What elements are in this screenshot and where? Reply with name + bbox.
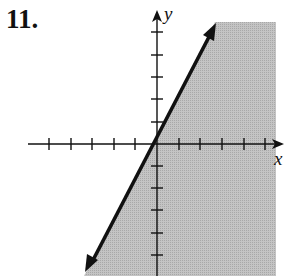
line-arrow-up-icon bbox=[203, 23, 216, 41]
inequality-graph: x y bbox=[0, 0, 286, 276]
shaded-region bbox=[84, 22, 276, 276]
x-axis-label: x bbox=[273, 148, 283, 169]
y-axis-label: y bbox=[162, 3, 173, 24]
